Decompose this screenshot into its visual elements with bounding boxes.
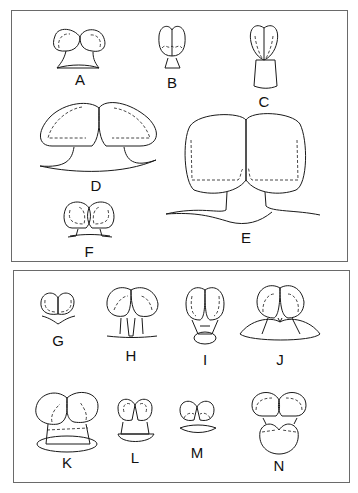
- figure-j-drawing: [240, 286, 320, 340]
- figure-k-drawing: [36, 392, 98, 452]
- figure-label-f: F: [84, 244, 93, 259]
- figure-e-drawing: [166, 114, 320, 224]
- figure-label-m: M: [191, 445, 204, 460]
- figure-c-drawing: [250, 26, 277, 89]
- figure-g-drawing: [41, 293, 75, 324]
- figure-m-drawing: [180, 401, 216, 432]
- figure-label-d: D: [91, 178, 102, 193]
- figure-i-drawing: [186, 288, 224, 344]
- figure-label-g: G: [52, 333, 64, 348]
- figure-f-drawing: [64, 202, 114, 237]
- figure-label-k: K: [62, 455, 72, 470]
- figure-label-a: A: [75, 72, 85, 87]
- figure-d-drawing: [40, 103, 156, 172]
- figure-b-drawing: [159, 26, 185, 68]
- figure-label-l: L: [131, 450, 139, 465]
- figure-n-drawing: [252, 393, 306, 455]
- figure-label-j: J: [276, 352, 284, 367]
- figure-label-e: E: [241, 230, 251, 245]
- figure-label-n: N: [274, 458, 285, 473]
- figure-label-c: C: [259, 94, 270, 109]
- diagram-drawings: [0, 0, 358, 493]
- figure-a-drawing: [53, 29, 104, 68]
- figure-label-h: H: [126, 348, 137, 363]
- figure-h-drawing: [107, 288, 158, 338]
- figure-label-b: B: [167, 75, 177, 90]
- figure-label-i: I: [203, 352, 207, 367]
- figure-l-drawing: [118, 399, 154, 441]
